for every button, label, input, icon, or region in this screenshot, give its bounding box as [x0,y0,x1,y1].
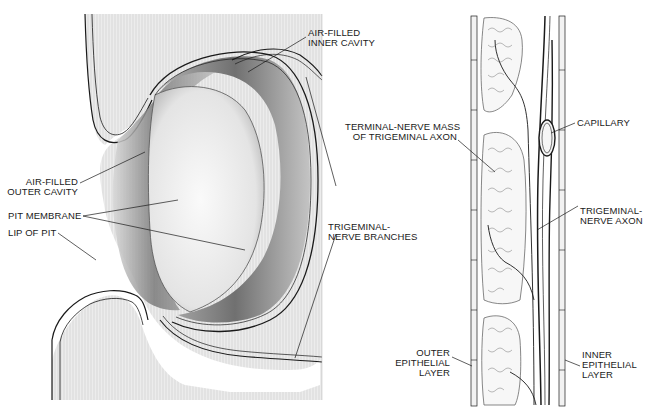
label-inner-epithelial-layer: INNER EPITHELIAL LAYER [582,350,637,380]
terminal-nerve-masses [481,18,526,405]
label-trigeminal-nerve-branches: TRIGEMINAL- NERVE BRANCHES [328,222,417,242]
pit-organ-figure: AIR-FILLED INNER CAVITY AIR-FILLED OUTER… [0,0,645,414]
label-outer-epithelial-layer: OUTER EPITHELIAL LAYER [395,348,450,378]
illustration [0,0,645,414]
label-air-filled-inner-cavity: AIR-FILLED INNER CAVITY [308,28,375,48]
label-air-filled-outer-cavity: AIR-FILLED OUTER CAVITY [2,177,78,197]
right-panel [452,16,580,406]
left-panel [52,14,336,400]
label-capillary: CAPILLARY [577,118,630,128]
capillary [539,120,555,156]
label-terminal-nerve-mass: TERMINAL-NERVE MASS OF TRIGEMINAL AXON [345,122,457,142]
label-trigeminal-nerve-axon: TRIGEMINAL- NERVE AXON [580,206,643,226]
outer-epithelial-layer [471,16,477,406]
trigeminal-nerve-axons [537,16,552,405]
inner-epithelial-layer [559,16,565,406]
label-pit-membrane: PIT MEMBRANE [8,211,81,221]
label-lip-of-pit: LIP OF PIT [8,228,56,238]
